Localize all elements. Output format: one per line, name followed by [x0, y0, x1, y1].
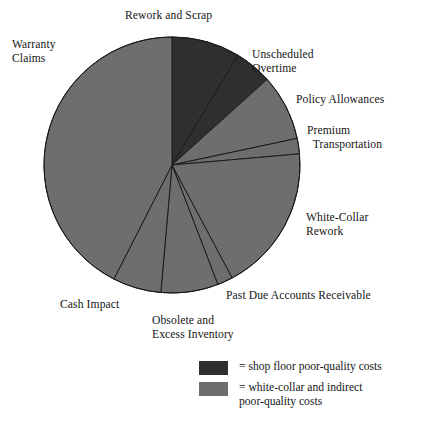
chart-legend: = shop floor poor-quality costs= white-c…: [199, 360, 431, 414]
slice-label-obsolete-and-excess-inventory: Obsolete and Excess Inventory: [152, 314, 282, 341]
legend-item-label: = shop floor poor-quality costs: [239, 360, 382, 374]
slice-label-unscheduled-overtime: Unscheduled Overtime: [252, 48, 382, 75]
legend-item-label: = white-collar and indirect poor-quality…: [239, 381, 362, 408]
legend-swatch-icon: [199, 361, 228, 375]
slice-label-warranty-claims: Warranty Claims: [12, 38, 122, 65]
slice-label-premium-transportation: Premium Transportation: [307, 124, 427, 151]
legend-item[interactable]: = shop floor poor-quality costs: [199, 360, 431, 375]
slice-label-cash-impact: Cash Impact: [60, 298, 170, 312]
slice-label-white-collar-rework: White-Collar Rework: [306, 211, 426, 238]
slice-label-rework-and-scrap: Rework and Scrap: [125, 9, 305, 23]
pie-chart-figure: Rework and Scrap Unscheduled Overtime Po…: [0, 0, 431, 430]
legend-swatch-icon: [199, 382, 228, 396]
slice-label-past-due-accounts-receivable: Past Due Accounts Receivable: [226, 289, 431, 303]
legend-item[interactable]: = white-collar and indirect poor-quality…: [199, 381, 431, 408]
slice-label-policy-allowances: Policy Allowances: [296, 93, 431, 107]
